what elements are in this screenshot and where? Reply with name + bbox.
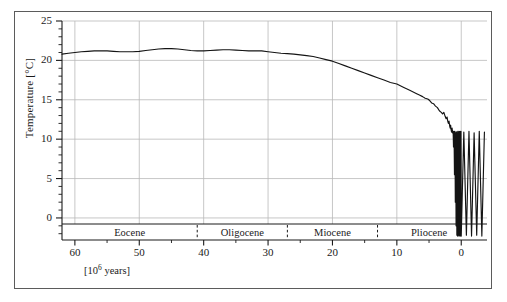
epoch-label-oligocene: Oligocene bbox=[197, 227, 287, 238]
x-tick-label: 0 bbox=[446, 247, 476, 258]
x-tick-label: 10 bbox=[382, 247, 412, 258]
epoch-label-eocene: Eocene bbox=[85, 227, 175, 238]
epoch-label-pliocene: Pliocene bbox=[384, 227, 474, 238]
figure-container: Temperature [°C] [106 years] 05101520256… bbox=[0, 0, 507, 302]
y-tick-label: 20 bbox=[28, 54, 52, 65]
y-tick-label: 25 bbox=[28, 15, 52, 26]
x-tick-label: 20 bbox=[317, 247, 347, 258]
y-tick-label: 15 bbox=[28, 94, 52, 105]
x-tick-label: 30 bbox=[253, 247, 283, 258]
x-tick-label: 50 bbox=[124, 247, 154, 258]
y-tick-label: 10 bbox=[28, 133, 52, 144]
x-tick-label: 40 bbox=[189, 247, 219, 258]
epoch-label-miocene: Miocene bbox=[287, 227, 377, 238]
y-tick-label: 0 bbox=[28, 212, 52, 223]
y-tick-label: 5 bbox=[28, 173, 52, 184]
x-tick-label: 60 bbox=[60, 247, 90, 258]
temperature-curve bbox=[62, 49, 484, 236]
